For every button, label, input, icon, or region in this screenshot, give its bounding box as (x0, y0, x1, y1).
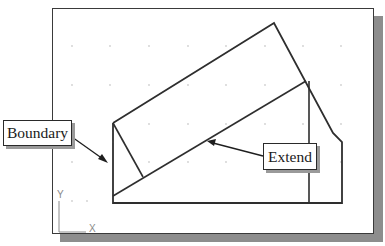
ucs-x-label: X (89, 223, 96, 234)
extend-callout: Extend (263, 143, 317, 170)
boundary-arrow-icon (72, 137, 108, 163)
grid-dots (71, 45, 342, 202)
boundary-callout-label: Boundary (7, 124, 68, 142)
ucs-icon (59, 201, 86, 232)
boundary-callout: Boundary (3, 120, 72, 146)
extend-arrow-icon (207, 139, 263, 156)
extend-target-line[interactable] (113, 81, 306, 196)
boundary-short-line[interactable] (113, 123, 143, 177)
extend-callout-label: Extend (268, 148, 312, 166)
ucs-y-label: Y (57, 189, 64, 200)
